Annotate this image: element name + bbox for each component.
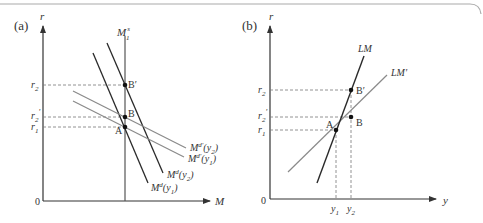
panel-a-md-y2-label: Md(y2)	[166, 168, 194, 183]
panel-b-lm-prime-label: LM′	[390, 67, 408, 78]
panel-b-y1-label: y1	[330, 203, 339, 217]
panel-b-r2-label: r2	[258, 84, 266, 98]
panel-b-point-b-prime-label: B′	[356, 85, 365, 96]
panel-b-origin: 0	[261, 195, 266, 206]
panel-b-lm-label: LM	[357, 43, 373, 54]
panel-b-x-axis-label: y	[442, 194, 448, 206]
panel-b-label: (b)	[242, 18, 257, 33]
panel-a-money-supply-label: Ms1	[116, 25, 130, 42]
panel-a-point-a-label: A	[115, 125, 123, 136]
frame-border	[0, 4, 481, 14]
economics-diagram: (a) r M 0 Ms1 r2 r2' r1 B′ B A Md'(y2) M	[0, 0, 483, 223]
panel-a-label: (a)	[14, 18, 28, 33]
figure-frame: (a) r M 0 Ms1 r2 r2' r1 B′ B A Md'(y2) M	[0, 0, 483, 223]
panel-a-point-b	[123, 115, 128, 120]
panel-b-point-b-label: B	[356, 117, 363, 128]
panel-a-md-y1-label: Md(y1)	[150, 181, 178, 196]
panel-a-x-axis-label: M	[214, 195, 225, 207]
panel-b-point-b-prime	[349, 88, 354, 93]
panel-a-point-b-prime	[123, 83, 128, 88]
panel-b-point-a-label: A	[326, 119, 334, 130]
panel-b-point-a	[334, 128, 339, 133]
panel-b-y-axis-label: r	[269, 10, 274, 22]
panel-a-point-b-prime-label: B′	[128, 79, 137, 90]
panel-a: (a) r M 0 Ms1 r2 r2' r1 B′ B A Md'(y2) M	[14, 10, 225, 207]
panel-a-point-a	[123, 125, 128, 130]
panel-a-origin: 0	[35, 196, 40, 207]
panel-b-lm-prime-curve	[288, 75, 387, 172]
panel-a-y-axis-label: r	[40, 10, 45, 22]
panel-a-r2-label: r2	[31, 79, 39, 93]
panel-b: (b) r y 0 r2 r2' r1 y1 y2 LM LM′ B′ B A	[242, 10, 448, 217]
panel-b-r2prime-label: r2'	[258, 108, 267, 124]
panel-b-point-b	[349, 115, 354, 120]
panel-b-r1-label: r1	[258, 124, 265, 138]
panel-b-y2-label: y2	[346, 203, 355, 217]
panel-a-point-b-label: B	[128, 108, 135, 119]
panel-a-mdprime-y1-label: Md'(y1)	[187, 152, 217, 167]
